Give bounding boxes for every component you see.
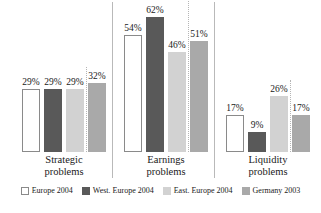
legend-item[interactable]: Germany 2003 <box>242 186 301 195</box>
bar-item[interactable]: 32% <box>88 0 106 152</box>
bar[interactable] <box>22 89 40 152</box>
bar-value-label: 29% <box>66 77 83 87</box>
bar-group: 29%29%29%32%Strategicproblems <box>22 0 106 152</box>
bar-value-label: 51% <box>190 29 207 39</box>
series-dotted-separator <box>290 80 291 152</box>
category-label-line: Liquidity <box>226 154 310 166</box>
legend-label: Germany 2003 <box>253 186 301 195</box>
legend-item[interactable]: West. Europe 2004 <box>82 186 154 195</box>
bar-item[interactable]: 26% <box>270 0 288 152</box>
category-label-line: Strategic <box>22 154 106 166</box>
bar-value-label: 29% <box>22 77 39 87</box>
bar-group-bars: 29%29%29%32% <box>22 0 106 152</box>
bar-group-bars: 17%9%26%17% <box>226 0 310 152</box>
bar[interactable] <box>88 83 106 152</box>
group-separator-2 <box>214 2 215 178</box>
group-separator-1 <box>112 2 113 178</box>
bar[interactable] <box>248 132 266 152</box>
bar-item[interactable]: 54% <box>124 0 142 152</box>
legend-swatch <box>82 187 90 195</box>
category-label-line: problems <box>124 166 208 178</box>
bar-value-label: 26% <box>270 84 287 94</box>
legend-item[interactable]: Europe 2004 <box>21 186 73 195</box>
bar[interactable] <box>124 35 142 152</box>
bar[interactable] <box>146 17 164 152</box>
bar[interactable] <box>44 89 62 152</box>
chart-legend: Europe 2004West. Europe 2004East. Europe… <box>0 186 321 195</box>
bar-item[interactable]: 17% <box>226 0 244 152</box>
bar-item[interactable]: 29% <box>66 0 84 152</box>
bar[interactable] <box>270 96 288 152</box>
series-dotted-separator <box>188 1 189 152</box>
category-label-line: problems <box>226 166 310 178</box>
legend-swatch <box>21 187 29 195</box>
bar-item[interactable]: 9% <box>248 0 266 152</box>
bar[interactable] <box>190 41 208 152</box>
bar-group: 17%9%26%17%Liquidityproblems <box>226 0 310 152</box>
series-dotted-separator <box>86 67 87 152</box>
bar-value-label: 54% <box>124 23 141 33</box>
bar-item[interactable]: 51% <box>190 0 208 152</box>
bar-item[interactable]: 46% <box>168 0 186 152</box>
bar[interactable] <box>66 89 84 152</box>
category-label-line: problems <box>22 166 106 178</box>
bar-item[interactable]: 29% <box>22 0 40 152</box>
category-label: Strategicproblems <box>22 154 106 178</box>
bar-value-label: 46% <box>168 40 185 50</box>
bar[interactable] <box>168 52 186 152</box>
bar-item[interactable]: 29% <box>44 0 62 152</box>
legend-label: East. Europe 2004 <box>174 186 233 195</box>
bar-item[interactable]: 17% <box>292 0 310 152</box>
bar-group-bars: 54%62%46%51% <box>124 0 208 152</box>
bar-group: 54%62%46%51%Earningsproblems <box>124 0 208 152</box>
bar[interactable] <box>292 115 310 152</box>
legend-swatch <box>163 187 171 195</box>
legend-label: West. Europe 2004 <box>93 186 154 195</box>
category-label-line: Earnings <box>124 154 208 166</box>
bar-value-label: 32% <box>88 71 105 81</box>
legend-item[interactable]: East. Europe 2004 <box>163 186 233 195</box>
bar-value-label: 62% <box>146 5 163 15</box>
plot-area: 29%29%29%32%Strategicproblems54%62%46%51… <box>0 0 321 180</box>
category-label: Earningsproblems <box>124 154 208 178</box>
bar-value-label: 9% <box>251 120 264 130</box>
category-label: Liquidityproblems <box>226 154 310 178</box>
bar-item[interactable]: 62% <box>146 0 164 152</box>
bar-value-label: 29% <box>44 77 61 87</box>
bar-value-label: 17% <box>226 103 243 113</box>
bar-chart: 29%29%29%32%Strategicproblems54%62%46%51… <box>0 0 321 213</box>
legend-swatch <box>242 187 250 195</box>
bar-value-label: 17% <box>292 103 309 113</box>
legend-label: Europe 2004 <box>32 186 73 195</box>
bar[interactable] <box>226 115 244 152</box>
